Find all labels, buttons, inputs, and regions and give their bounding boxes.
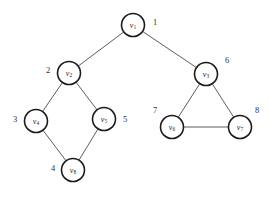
vertex-index-label-v7: 8 bbox=[255, 105, 259, 115]
edge-v2-v5 bbox=[76, 82, 97, 110]
node-subscript-v5: 5 bbox=[104, 118, 107, 124]
vertex-index-label-v8: 4 bbox=[51, 163, 56, 173]
graph-canvas: v1v2v3v4v5v6v7v8 12635784 bbox=[0, 0, 270, 197]
edge-v2-v4 bbox=[43, 82, 63, 111]
node-subscript-v2: 2 bbox=[69, 72, 72, 78]
graph-figure: v1v2v3v4v5v6v7v8 12635784 bbox=[0, 0, 270, 197]
edge-v1-v2 bbox=[78, 32, 124, 66]
vertex-index-labels-layer: 12635784 bbox=[13, 17, 259, 173]
node-v8[interactable]: v8 bbox=[62, 159, 85, 182]
vertex-index-label-v5: 5 bbox=[123, 114, 127, 124]
vertex-index-label-v2: 2 bbox=[46, 65, 50, 75]
vertex-index-label-v3: 6 bbox=[225, 55, 229, 65]
edge-v3-v6 bbox=[178, 84, 200, 118]
node-v7[interactable]: v7 bbox=[229, 116, 252, 139]
edge-v5-v8 bbox=[79, 129, 98, 160]
node-subscript-v7: 7 bbox=[240, 126, 243, 132]
node-subscript-v8: 8 bbox=[73, 169, 76, 175]
node-v6[interactable]: v6 bbox=[161, 116, 184, 139]
edge-v1-v3 bbox=[143, 31, 197, 67]
vertex-index-label-v1: 1 bbox=[153, 17, 157, 27]
node-subscript-v4: 4 bbox=[36, 120, 39, 126]
node-v2[interactable]: v2 bbox=[58, 62, 81, 85]
vertex-index-label-v4: 3 bbox=[13, 114, 17, 124]
node-v1[interactable]: v1 bbox=[122, 14, 145, 37]
edge-v3-v7 bbox=[212, 84, 234, 118]
edge-v4-v8 bbox=[43, 130, 66, 161]
nodes-layer: v1v2v3v4v5v6v7v8 bbox=[25, 14, 252, 182]
node-v5[interactable]: v5 bbox=[93, 108, 116, 131]
node-subscript-v3: 3 bbox=[206, 73, 209, 79]
vertex-index-label-v6: 7 bbox=[153, 105, 157, 115]
edges-layer bbox=[43, 31, 234, 160]
node-v4[interactable]: v4 bbox=[25, 110, 48, 133]
node-v3[interactable]: v3 bbox=[195, 63, 218, 86]
node-subscript-v6: 6 bbox=[172, 126, 175, 132]
node-subscript-v1: 1 bbox=[133, 24, 136, 30]
